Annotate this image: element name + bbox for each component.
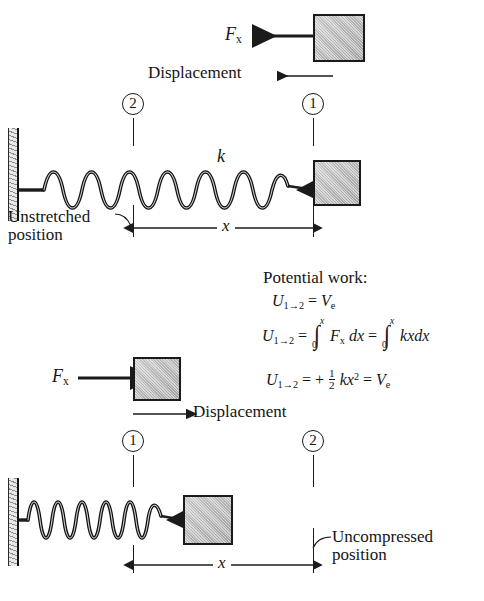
spring-potential-energy-figure: Fx Displacement 2 1 k Unstretched positi… bbox=[0, 0, 484, 601]
lower-uncompressed-leader bbox=[0, 0, 484, 601]
lower-uncompressed-position-label: Uncompressed position bbox=[332, 528, 478, 565]
